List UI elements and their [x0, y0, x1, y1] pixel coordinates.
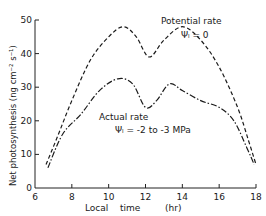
- y-axis-label: Net photosynthesis (ng cm⁻² s⁻¹): [8, 45, 18, 186]
- actual-rate-psi-label: Ψₗ = -2 to -3 MPa: [115, 125, 191, 135]
- axes: 68101214161801020304050: [21, 15, 262, 202]
- potential-rate-psi-label: Ψₗ = 0: [181, 30, 209, 40]
- y-tick-label: 0: [26, 183, 32, 193]
- chart-canvas: 68101214161801020304050 Potential rate Ψ…: [0, 0, 266, 216]
- y-tick-label: 30: [21, 82, 33, 92]
- x-tick-label: 14: [177, 192, 189, 202]
- x-tick-label: 6: [32, 192, 38, 202]
- x-axis-label-unit: (hr): [165, 203, 181, 213]
- x-tick-label: 10: [103, 192, 115, 202]
- actual-rate-label: Actual rate: [99, 112, 149, 122]
- x-tick-label: 12: [140, 192, 151, 202]
- x-tick-label: 16: [213, 192, 225, 202]
- x-tick-label: 8: [69, 192, 75, 202]
- y-tick-label: 20: [21, 116, 33, 126]
- x-axis-label-local: Local: [85, 203, 108, 213]
- y-tick-label: 10: [21, 149, 33, 159]
- x-axis-label-time: time: [120, 203, 141, 213]
- y-tick-label: 50: [21, 15, 33, 25]
- potential-rate-line: [46, 27, 256, 165]
- actual-rate-line: [48, 78, 254, 167]
- x-tick-label: 18: [250, 192, 262, 202]
- series-group: [46, 27, 256, 168]
- photosynthesis-chart: 68101214161801020304050 Potential rate Ψ…: [0, 0, 266, 216]
- y-tick-label: 40: [21, 49, 33, 59]
- potential-rate-label: Potential rate: [161, 16, 222, 26]
